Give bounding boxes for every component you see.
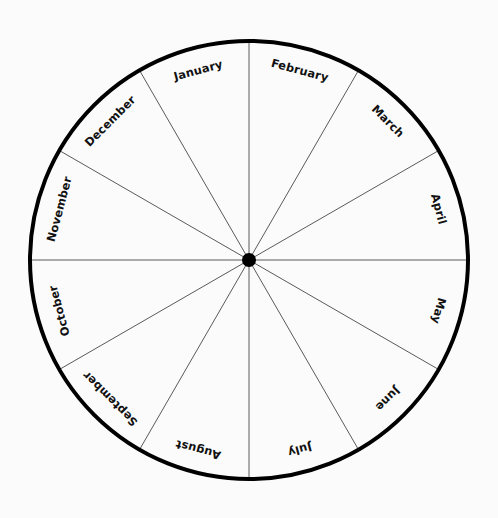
month-label-july: July xyxy=(286,440,314,460)
sector-divider-line xyxy=(59,260,249,370)
sector-divider-line xyxy=(140,260,250,450)
month-wheel-figure: FebruaryMarchAprilMayJuneJulyAugustSepte… xyxy=(0,0,498,518)
month-label-april: April xyxy=(428,192,450,226)
sector-divider-line xyxy=(59,151,249,261)
month-label-december: December xyxy=(82,93,139,150)
sector-divider-line xyxy=(249,151,439,261)
month-label-january: January xyxy=(171,57,224,84)
month-wheel-canvas: FebruaryMarchAprilMayJuneJulyAugustSepte… xyxy=(0,0,498,518)
sector-divider-line xyxy=(249,260,439,370)
month-label-february: February xyxy=(270,56,331,85)
month-label-march: March xyxy=(369,102,407,140)
month-label-september: September xyxy=(79,368,140,429)
sector-divider-line xyxy=(249,70,359,260)
month-label-may: May xyxy=(428,296,449,326)
wheel-center-hub xyxy=(242,253,256,267)
month-label-october: October xyxy=(46,284,73,338)
sector-divider-line xyxy=(140,70,250,260)
sector-divider-line xyxy=(249,260,359,450)
month-label-june: June xyxy=(373,383,404,414)
month-label-november: November xyxy=(44,175,75,244)
month-label-august: August xyxy=(174,437,223,463)
